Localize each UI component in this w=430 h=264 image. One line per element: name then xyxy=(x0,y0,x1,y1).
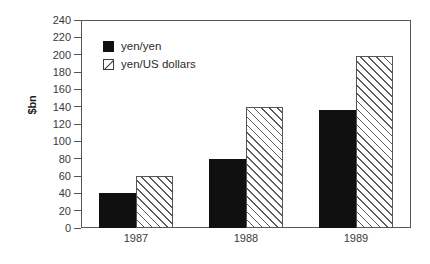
y-tick-mark xyxy=(74,158,81,159)
y-tick-label: 60 xyxy=(59,170,71,182)
bar-1988-yen-us-dollars xyxy=(246,107,283,228)
solid-square-icon xyxy=(103,41,114,52)
bar-1988-yen-yen xyxy=(209,159,246,228)
y-tick-mark xyxy=(74,72,81,73)
x-axis: 198719881989 xyxy=(81,232,411,252)
x-tick-label: 1989 xyxy=(301,232,411,244)
bar-1989-yen-yen xyxy=(319,110,356,228)
legend-item: yen/yen xyxy=(103,38,196,54)
y-tick-label: 160 xyxy=(53,83,71,95)
y-tick-mark xyxy=(74,54,81,55)
y-tick-label: 200 xyxy=(53,49,71,61)
y-tick-mark xyxy=(74,210,81,211)
y-tick-label: 80 xyxy=(59,153,71,165)
bar-group xyxy=(209,20,283,228)
x-tick-label: 1988 xyxy=(191,232,301,244)
y-tick-mark xyxy=(74,37,81,38)
bar-1987-yen-us-dollars xyxy=(136,176,173,228)
bar-1989-yen-us-dollars xyxy=(356,56,393,228)
bar-1987-yen-yen xyxy=(99,193,136,228)
y-tick-mark xyxy=(74,89,81,90)
hatched-square-icon xyxy=(103,59,114,70)
y-tick-label: 240 xyxy=(53,14,71,26)
y-tick-label: 120 xyxy=(53,118,71,130)
y-tick-label: 40 xyxy=(59,187,71,199)
chart-legend: yen/yenyen/US dollars xyxy=(103,38,196,74)
y-tick-mark xyxy=(74,193,81,194)
y-tick-mark xyxy=(74,141,81,142)
y-tick-mark xyxy=(74,124,81,125)
bar-group xyxy=(319,20,393,228)
y-tick-label: 100 xyxy=(53,135,71,147)
y-tick-mark xyxy=(74,176,81,177)
y-tick-label: 140 xyxy=(53,101,71,113)
y-tick-label: 180 xyxy=(53,66,71,78)
y-tick-mark xyxy=(74,20,81,21)
x-tick-label: 1987 xyxy=(81,232,191,244)
y-tick-label: 20 xyxy=(59,205,71,217)
y-tick-label: 0 xyxy=(65,222,71,234)
legend-item-label: yen/yen xyxy=(121,40,161,52)
y-tick-label: 220 xyxy=(53,31,71,43)
y-tick-mark xyxy=(74,228,81,229)
y-axis: 240220200180160140120100806040200 xyxy=(37,20,81,228)
legend-item: yen/US dollars xyxy=(103,56,196,72)
legend-item-label: yen/US dollars xyxy=(121,58,196,70)
y-tick-mark xyxy=(74,106,81,107)
bar-chart: $bn 240220200180160140120100806040200 19… xyxy=(0,0,430,264)
